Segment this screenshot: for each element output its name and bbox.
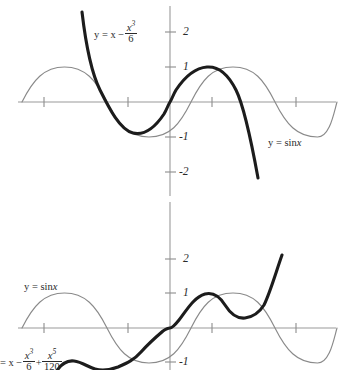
- sine-label-rhs-top: sin: [284, 137, 296, 148]
- top-chart-svg: [0, 0, 342, 200]
- y-tick-label-1-bottom: 1: [183, 287, 189, 299]
- y-tick-label-2-top: 2: [183, 26, 189, 38]
- sine-label-rhs-bottom: sin: [40, 281, 52, 292]
- sine-label-arg-top: x: [297, 137, 302, 148]
- chart-panel-top: 2 1 -1 -2 y = x −x36 y = sinx: [0, 0, 342, 200]
- y-tick-label-neg-1-top: -1: [179, 131, 189, 143]
- sine-label-arg-bottom: x: [53, 281, 58, 292]
- fraction-numerator-x5: x5: [42, 348, 62, 362]
- curve-label-taylor-cubic: y = x −x36: [94, 20, 138, 45]
- curve-label-sine-top: y = sinx: [268, 137, 301, 148]
- fraction-denominator-120: 120: [42, 362, 62, 370]
- curve-label-taylor-quintic-lhs: y = x −: [0, 357, 22, 368]
- curve-label-sine-bottom: y = sinx: [24, 281, 57, 292]
- fraction-denominator-6: 6: [125, 34, 137, 45]
- sine-label-lhs-bottom: y =: [24, 281, 40, 292]
- y-tick-label-2-bottom: 2: [183, 253, 189, 265]
- fraction-denominator-6-bottom: 6: [23, 362, 35, 370]
- chart-panel-bottom: 2 1 -1 y = sinx y = x −x36+x5120: [0, 200, 342, 370]
- curve-label-taylor-quintic: y = x −x36+x5120: [0, 348, 62, 370]
- fraction-numerator-x3-bottom: x3: [23, 348, 35, 362]
- y-tick-label-neg-2-top: -2: [179, 166, 189, 178]
- plus-sign: +: [36, 357, 42, 368]
- y-tick-label-neg-1-bottom: -1: [179, 356, 189, 368]
- fraction-x3-over-6-bottom: x36: [23, 348, 35, 370]
- taylor-quintic-curve-bottom: [56, 255, 282, 370]
- figure-root: 2 1 -1 -2 y = x −x36 y = sinx: [0, 0, 342, 370]
- fraction-numerator-x3: x3: [125, 20, 137, 34]
- curve-label-taylor-cubic-lhs: y = x −: [94, 29, 124, 40]
- fraction-x5-over-120: x5120: [42, 348, 62, 370]
- sine-label-lhs-top: y =: [268, 137, 284, 148]
- y-tick-label-1-top: 1: [183, 61, 189, 73]
- fraction-x3-over-6: x36: [125, 20, 137, 45]
